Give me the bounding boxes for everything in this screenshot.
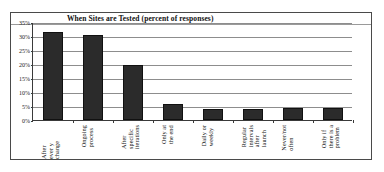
y-tick-mark	[31, 65, 33, 66]
x-axis-label: After ever y change	[41, 125, 61, 159]
y-tick-mark	[31, 37, 33, 38]
bar	[123, 65, 143, 120]
x-axis-label: Ongoing process	[81, 125, 94, 147]
y-tick-label: 25%	[19, 48, 30, 54]
y-tick-label: 20%	[19, 62, 30, 68]
x-axis-label: Daily or weekly	[201, 125, 214, 146]
gridline	[33, 51, 352, 52]
bar	[43, 32, 63, 120]
bar	[163, 104, 183, 120]
y-tick-label: 0%	[22, 118, 30, 124]
chart-figure: When Sites are Tested (percent of respon…	[10, 12, 372, 160]
y-tick-mark	[31, 93, 33, 94]
y-tick-mark	[31, 23, 33, 24]
x-tick-mark	[73, 120, 74, 123]
x-axis-label: Never/not often	[281, 125, 294, 151]
plot-area: 0%5%10%15%20%25%30%35%	[32, 23, 352, 121]
y-tick-mark	[31, 79, 33, 80]
bar	[243, 109, 263, 120]
bar	[83, 35, 103, 120]
gridline	[33, 65, 352, 66]
x-axis-label: Regular intervals after launch	[241, 125, 267, 147]
gridline	[33, 107, 352, 108]
y-tick-label: 35%	[19, 20, 30, 26]
y-tick-mark	[31, 107, 33, 108]
x-tick-mark	[273, 120, 274, 123]
y-tick-mark	[31, 51, 33, 52]
x-axis-label: Only if there is a problem	[321, 125, 341, 148]
y-tick-label: 5%	[22, 104, 30, 110]
y-tick-label: 10%	[19, 90, 30, 96]
bar	[203, 109, 223, 120]
x-tick-mark	[193, 120, 194, 123]
bar	[283, 108, 303, 120]
gridline	[33, 37, 352, 38]
gridline	[33, 79, 352, 80]
y-tick-label: 15%	[19, 76, 30, 82]
gridline	[33, 93, 352, 94]
x-tick-mark	[153, 120, 154, 123]
bar	[323, 108, 343, 120]
gridline	[33, 23, 352, 24]
y-tick-mark	[31, 121, 33, 122]
x-tick-mark	[113, 120, 114, 123]
x-axis-label: After specific iterations	[121, 125, 141, 149]
x-tick-mark	[353, 120, 354, 123]
chart-title: When Sites are Tested (percent of respon…	[67, 14, 213, 23]
y-tick-label: 30%	[19, 34, 30, 40]
x-tick-mark	[313, 120, 314, 123]
x-axis-label: Only at the end	[161, 125, 174, 144]
x-tick-mark	[233, 120, 234, 123]
